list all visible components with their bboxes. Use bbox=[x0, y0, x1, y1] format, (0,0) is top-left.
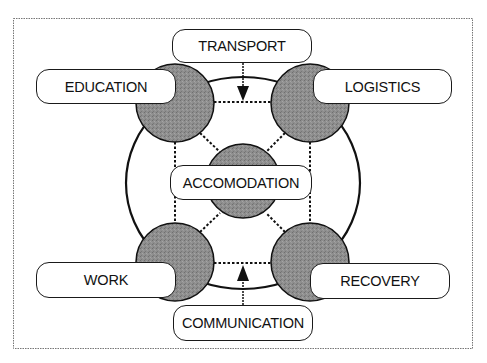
work-label: WORK bbox=[36, 262, 176, 298]
education-label: EDUCATION bbox=[36, 69, 176, 104]
communication-label: COMMUNICATION bbox=[173, 305, 313, 341]
logistics-label: LOGISTICS bbox=[313, 69, 452, 104]
recovery-label: RECOVERY bbox=[310, 263, 450, 299]
transport-label: TRANSPORT bbox=[172, 29, 312, 63]
accomodation-label: ACCOMODATION bbox=[170, 165, 312, 200]
diagram-canvas: TRANSPORT EDUCATION LOGISTICS ACCOMODATI… bbox=[0, 0, 487, 363]
transport-arrow bbox=[237, 63, 249, 101]
communication-arrow bbox=[237, 265, 249, 305]
